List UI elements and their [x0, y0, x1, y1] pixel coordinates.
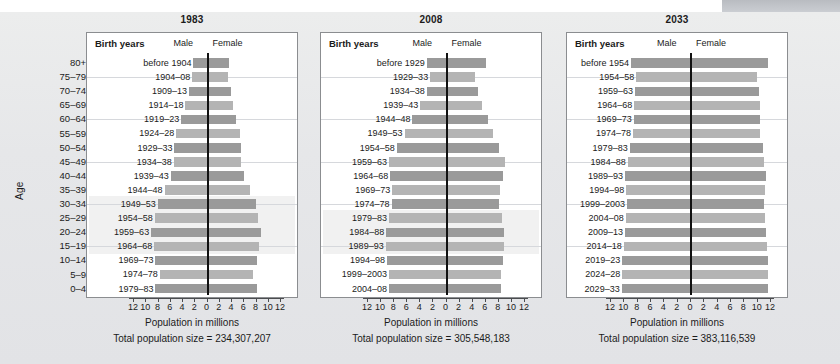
bar-female[interactable]	[208, 101, 233, 111]
pyramid-row[interactable]: 2004–08	[321, 282, 541, 296]
bar-female[interactable]	[447, 115, 488, 125]
pyramid-row[interactable]: 1979–83	[567, 141, 787, 155]
bar-male[interactable]	[627, 199, 691, 209]
bar-male[interactable]	[193, 58, 207, 68]
bar-male[interactable]	[389, 270, 447, 280]
bar-female[interactable]	[208, 228, 262, 238]
bar-female[interactable]	[691, 101, 760, 111]
pyramid-row[interactable]: 1974–78	[321, 197, 541, 211]
bar-male[interactable]	[158, 199, 208, 209]
bar-male[interactable]	[392, 185, 446, 195]
pyramid-row[interactable]: 1954–58	[87, 211, 297, 225]
pyramid-row[interactable]: 1919–23	[87, 112, 297, 126]
pyramid-row[interactable]: before 1929	[321, 56, 541, 70]
bar-female[interactable]	[208, 256, 258, 266]
bar-male[interactable]	[189, 87, 207, 97]
pyramid-row[interactable]: 1929–33	[87, 141, 297, 155]
bar-female[interactable]	[208, 270, 253, 280]
pyramid-row[interactable]: 1974–78	[87, 267, 297, 281]
pyramid-row[interactable]: 1939–43	[321, 98, 541, 112]
bar-female[interactable]	[691, 242, 767, 252]
pyramid-row[interactable]: 1984–88	[567, 155, 787, 169]
bar-female[interactable]	[447, 228, 505, 238]
bar-male[interactable]	[397, 143, 447, 153]
bar-female[interactable]	[447, 87, 478, 97]
bar-male[interactable]	[192, 72, 207, 82]
bar-female[interactable]	[691, 129, 760, 139]
pyramid-row[interactable]: 1969–73	[87, 253, 297, 267]
bar-male[interactable]	[151, 228, 207, 238]
pyramid-row[interactable]: 1949–53	[87, 197, 297, 211]
pyramid-row[interactable]: 1929–33	[321, 70, 541, 84]
bar-male[interactable]	[635, 87, 691, 97]
bar-male[interactable]	[386, 228, 446, 238]
pyramid-row[interactable]: 1979–83	[321, 211, 541, 225]
bar-male[interactable]	[420, 101, 446, 111]
bar-male[interactable]	[389, 284, 447, 294]
bar-female[interactable]	[691, 256, 768, 266]
bar-female[interactable]	[447, 171, 503, 181]
bar-male[interactable]	[626, 185, 691, 195]
pyramid-row[interactable]: 1949–53	[321, 126, 541, 140]
pyramid-row[interactable]: 1959–63	[87, 225, 297, 239]
pyramid-row[interactable]: 1939–43	[87, 169, 297, 183]
pyramid-row[interactable]: 1969–73	[321, 183, 541, 197]
pyramid-row[interactable]: 2014–18	[567, 239, 787, 253]
bar-female[interactable]	[447, 213, 503, 223]
bar-male[interactable]	[185, 101, 207, 111]
bar-female[interactable]	[208, 213, 259, 223]
bar-female[interactable]	[447, 199, 500, 209]
pyramid-row[interactable]: 1944–48	[321, 112, 541, 126]
bar-female[interactable]	[691, 58, 768, 68]
pyramid-row[interactable]: 1904–08	[87, 70, 297, 84]
bar-female[interactable]	[447, 256, 503, 266]
bar-female[interactable]	[208, 171, 245, 181]
bar-male[interactable]	[427, 58, 447, 68]
bar-male[interactable]	[622, 256, 691, 266]
bar-female[interactable]	[691, 199, 764, 209]
bar-female[interactable]	[447, 284, 502, 294]
bar-female[interactable]	[691, 284, 768, 294]
bar-female[interactable]	[447, 58, 486, 68]
pyramid-row[interactable]: 1994–98	[321, 253, 541, 267]
bar-female[interactable]	[691, 143, 763, 153]
bar-male[interactable]	[389, 213, 447, 223]
bar-female[interactable]	[447, 157, 505, 167]
pyramid-row[interactable]: 1914–18	[87, 98, 297, 112]
bar-female[interactable]	[691, 157, 764, 167]
bar-male[interactable]	[387, 256, 447, 266]
bar-female[interactable]	[447, 242, 505, 252]
pyramid-row[interactable]: 1964–68	[567, 98, 787, 112]
bar-female[interactable]	[208, 143, 242, 153]
pyramid-row[interactable]: 1994–98	[567, 183, 787, 197]
bar-female[interactable]	[447, 270, 502, 280]
pyramid-row[interactable]: 1964–68	[321, 169, 541, 183]
pyramid-row[interactable]: 1954–58	[567, 70, 787, 84]
bar-male[interactable]	[181, 115, 207, 125]
bar-female[interactable]	[208, 72, 229, 82]
pyramid-row[interactable]: 2029–33	[567, 282, 787, 296]
bar-male[interactable]	[625, 171, 691, 181]
pyramid-row[interactable]: 1979–83	[87, 282, 297, 296]
bar-male[interactable]	[626, 213, 691, 223]
pyramid-row[interactable]: 1909–13	[87, 84, 297, 98]
bar-male[interactable]	[631, 58, 691, 68]
pyramid-row[interactable]: 2024–28	[567, 267, 787, 281]
bar-male[interactable]	[636, 72, 691, 82]
bar-male[interactable]	[154, 242, 207, 252]
pyramid-row[interactable]: 1959–63	[321, 155, 541, 169]
bar-male[interactable]	[174, 157, 208, 167]
pyramid-row[interactable]: 2004–08	[567, 211, 787, 225]
bar-male[interactable]	[624, 242, 691, 252]
bar-female[interactable]	[691, 270, 768, 280]
bar-male[interactable]	[392, 199, 447, 209]
bar-male[interactable]	[427, 87, 447, 97]
bar-male[interactable]	[634, 115, 691, 125]
pyramid-row[interactable]: before 1904	[87, 56, 297, 70]
pyramid-row[interactable]: 1984–88	[321, 225, 541, 239]
bar-female[interactable]	[208, 199, 256, 209]
bar-male[interactable]	[625, 228, 691, 238]
pyramid-row[interactable]: 1934–38	[321, 84, 541, 98]
pyramid-row[interactable]: 1999–2003	[567, 197, 787, 211]
bar-male[interactable]	[171, 171, 208, 181]
